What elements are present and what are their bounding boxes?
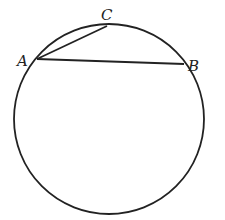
chord-ab <box>37 59 184 64</box>
point-label-c: C <box>101 6 113 24</box>
circle-chord-diagram: A B C <box>0 0 225 220</box>
point-label-a: A <box>15 52 28 70</box>
circle <box>14 24 204 214</box>
point-label-b: B <box>187 57 199 75</box>
